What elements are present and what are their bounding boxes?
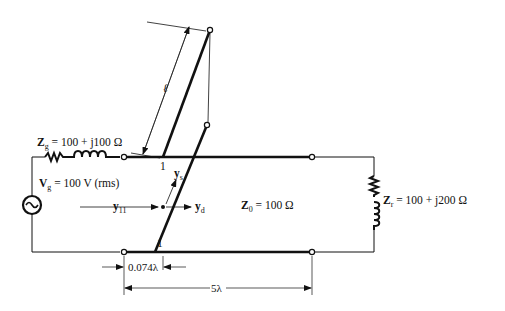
stub-2	[155, 125, 207, 252]
y11-label: y11	[113, 201, 126, 215]
load-resistor-icon	[370, 176, 378, 197]
circuit-drawing	[0, 0, 505, 311]
yd-label: yd	[195, 201, 205, 215]
line-length-dimension: 5λ	[211, 283, 222, 294]
stub-spacing-dimension: 0.074λ	[128, 262, 158, 273]
inductor-icon	[67, 151, 120, 157]
stub-2-number: 1	[157, 238, 163, 250]
load-inductor-icon	[374, 202, 379, 230]
source-voltage-label: Vg = 100 V (rms)	[39, 178, 119, 192]
z0-label: Z0 = 100 Ω	[241, 200, 294, 214]
resistor-icon	[45, 153, 67, 161]
ys-label: ys	[174, 168, 183, 182]
load-impedance-label: Zr = 100 + j200 Ω	[383, 195, 467, 209]
stub-1-number: 1	[160, 161, 166, 173]
source-impedance-label: Zg = 100 + j100 Ω	[37, 137, 122, 151]
stub-length-label: ℓ	[163, 83, 168, 95]
